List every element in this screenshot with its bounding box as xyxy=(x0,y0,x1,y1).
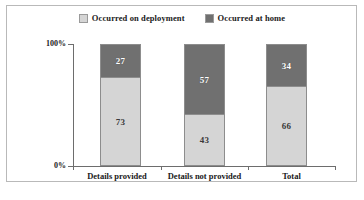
legend-swatch-occurred-on-deployment xyxy=(79,14,88,23)
bar-value-label: 43 xyxy=(200,135,209,145)
bar-segment-occurred-at-home: 27 xyxy=(100,44,141,77)
bar-group-details-not-provided: 57 43 xyxy=(184,44,225,166)
bar-segment-occurred-on-deployment: 66 xyxy=(266,86,307,166)
bar-segment-occurred-at-home: 34 xyxy=(266,44,307,86)
bar-segment-occurred-on-deployment: 43 xyxy=(184,114,225,166)
x-tick-mark-1 xyxy=(161,166,162,170)
x-tick-mark-2 xyxy=(248,166,249,170)
bar-segment-occurred-on-deployment: 73 xyxy=(100,77,141,166)
plot-area: 27 73 57 43 34 66 xyxy=(73,44,335,166)
bar-value-label: 57 xyxy=(200,75,209,85)
x-category-label-details-not-provided: Details not provided xyxy=(161,171,248,181)
chart-legend: Occurred on deployment Occurred at home xyxy=(0,13,364,23)
bar-value-label: 27 xyxy=(116,56,125,66)
legend-label-occurred-on-deployment: Occurred on deployment xyxy=(92,13,185,23)
bar-value-label: 73 xyxy=(116,117,125,127)
legend-swatch-occurred-at-home xyxy=(205,14,214,23)
legend-label-occurred-at-home: Occurred at home xyxy=(218,13,286,23)
bar-group-total: 34 66 xyxy=(266,44,307,166)
x-category-label-total: Total xyxy=(248,171,335,181)
y-tick-label-100: 100% xyxy=(34,39,66,48)
bar-value-label: 66 xyxy=(282,121,291,131)
x-category-label-details-provided: Details provided xyxy=(73,171,161,181)
y-tick-label-0: 0% xyxy=(34,161,66,170)
x-tick-mark-0 xyxy=(73,166,74,170)
legend-item-occurred-on-deployment: Occurred on deployment xyxy=(79,13,185,23)
bar-group-details-provided: 27 73 xyxy=(100,44,141,166)
x-tick-mark-3 xyxy=(335,166,336,170)
bar-segment-occurred-at-home: 57 xyxy=(184,44,225,114)
legend-item-occurred-at-home: Occurred at home xyxy=(205,13,286,23)
stacked-bar-chart-figure: Occurred on deployment Occurred at home … xyxy=(0,0,364,200)
x-axis-line xyxy=(73,166,336,167)
bar-value-label: 34 xyxy=(282,61,291,71)
